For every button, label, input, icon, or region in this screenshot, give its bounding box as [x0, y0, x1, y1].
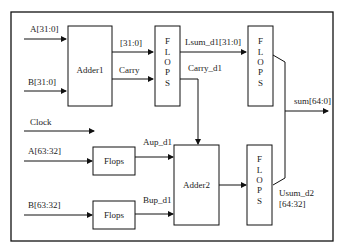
signal-carry: Carry	[119, 65, 140, 75]
flops-stage1-letter-o: O	[164, 57, 171, 67]
flops-b-label: Flops	[104, 210, 125, 220]
flops-a-label: Flops	[104, 156, 125, 166]
flops-stage2-low-letter-f: F	[258, 36, 263, 46]
arrow-carry-d1	[180, 79, 198, 144]
flops-stage2-high-letter-s: S	[257, 196, 262, 206]
flops-stage1-letter-s: S	[165, 78, 170, 88]
flops-stage2-high-letter-p: P	[257, 185, 262, 195]
output-label-sum: sum[64:0]	[294, 96, 331, 106]
input-label-a-low: A[31:0]	[30, 24, 59, 34]
signal-bup-d1: Bup_d1	[143, 195, 172, 205]
signal-usum-d2-name: Usum_d2	[279, 188, 314, 198]
flops-stage1-letter-l: L	[165, 47, 171, 57]
input-label-clock: Clock	[30, 117, 52, 127]
merge-line-low	[273, 55, 285, 111]
flops-stage2-low-letter-p: P	[258, 67, 263, 77]
input-label-b-low: B[31:0]	[28, 77, 56, 87]
input-label-b-high: B[63:32]	[28, 200, 61, 210]
flops-stage1-letter-f: F	[165, 36, 170, 46]
flops-stage2-low-letter-o: O	[257, 57, 264, 67]
signal-usum-d2-range: [64:32]	[279, 199, 306, 209]
adder2-label: Adder2	[183, 180, 210, 190]
flops-stage2-high-letter-l: L	[257, 165, 263, 175]
signal-adder1-sum: [31:0]	[120, 38, 142, 48]
flops-stage1-letter-p: P	[165, 67, 170, 77]
signal-carry-d1: Carry_d1	[188, 63, 222, 73]
adder1-label: Adder1	[77, 65, 104, 75]
signal-lsum-d1: Lsum_d1[31:0]	[185, 37, 241, 47]
merge-line-high	[273, 111, 285, 185]
flops-stage2-high-letter-o: O	[256, 175, 263, 185]
flops-stage2-low-letter-s: S	[258, 78, 263, 88]
input-label-a-high: A[63:32]	[28, 146, 61, 156]
signal-aup-d1: Aup_d1	[143, 137, 172, 147]
pipelined-adder-diagram: A[31:0] B[31:0] Adder1 [31:0] Carry F L …	[0, 0, 348, 250]
flops-stage2-high-letter-f: F	[257, 154, 262, 164]
flops-stage2-low-letter-l: L	[258, 47, 264, 57]
